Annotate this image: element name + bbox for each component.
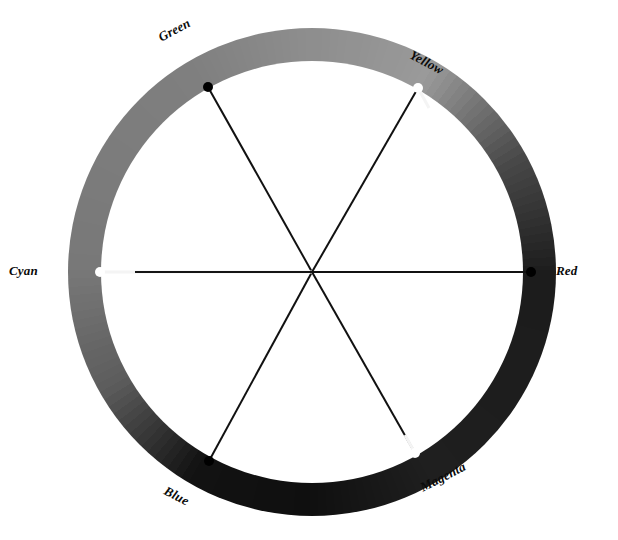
marker-green[interactable] <box>203 82 213 92</box>
label-cyan: Cyan <box>9 264 38 277</box>
marker-cyan[interactable] <box>95 267 105 277</box>
marker-yellow[interactable] <box>413 83 423 93</box>
color-wheel-figure: Green Yellow Red Magenta Blue Cyan <box>0 0 618 540</box>
label-red: Red <box>556 264 578 277</box>
marker-red[interactable] <box>526 267 536 277</box>
marker-magenta[interactable] <box>410 448 420 458</box>
color-wheel-graphic <box>0 0 618 540</box>
marker-blue[interactable] <box>204 456 214 466</box>
